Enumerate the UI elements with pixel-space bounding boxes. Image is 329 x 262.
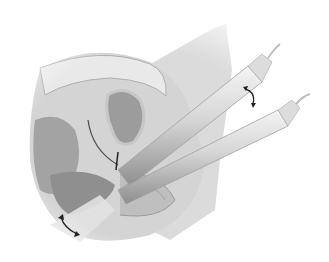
medical-illustration xyxy=(0,0,329,262)
pelvic-anatomy-cross-section xyxy=(0,0,329,262)
